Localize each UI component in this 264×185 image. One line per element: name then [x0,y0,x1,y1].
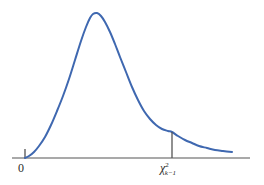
chi-superscript-two: 2 [165,161,169,169]
origin-axis-label: 0 [18,162,24,174]
critical-value-axis-label: χ2k−1 [160,162,176,174]
chi-square-plot-canvas [0,0,264,185]
chi-square-distribution-figure: 0 χ2k−1 [0,0,264,185]
chi-subscript-k-minus-one: k−1 [165,169,176,177]
